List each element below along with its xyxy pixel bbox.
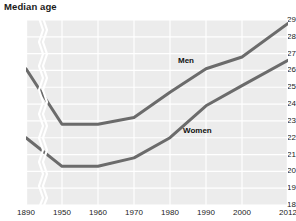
- plot-svg: [26, 20, 288, 205]
- chart-container: Median age 292827262524232221201918 1890…: [0, 0, 296, 221]
- x-tick-label: 1950: [53, 208, 71, 217]
- series-label-women: Women: [183, 126, 212, 135]
- x-tick-label: 1890: [17, 208, 35, 217]
- series-line-men: [26, 23, 288, 124]
- axis-break-zigzag-icon: [33, 18, 49, 208]
- x-tick-label: 2012: [279, 208, 296, 217]
- x-tick-label: 1970: [125, 208, 143, 217]
- series-label-men: Men: [178, 56, 194, 65]
- x-tick-label: 1960: [89, 208, 107, 217]
- x-tick-label: 1980: [161, 208, 179, 217]
- x-tick-label: 2000: [233, 208, 251, 217]
- series-line-women: [26, 60, 288, 166]
- horizontal-gridlines: [26, 20, 288, 205]
- x-tick-label: 1990: [197, 208, 215, 217]
- chart-title: Median age: [4, 1, 57, 12]
- series-lines: [26, 23, 288, 166]
- vertical-gridlines: [27, 20, 288, 205]
- plot-area: [26, 20, 288, 205]
